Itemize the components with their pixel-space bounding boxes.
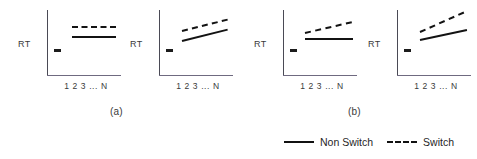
- group-label-a: (a): [110, 106, 123, 117]
- solid-line-icon: [284, 141, 314, 143]
- y-axis-label: RT: [254, 39, 266, 49]
- dashed-line-icon: [387, 141, 417, 143]
- x-axis-line: [283, 75, 357, 76]
- baseline-tick: [54, 49, 61, 52]
- series-non-switch-line: [420, 29, 467, 41]
- chart-panel-2: RT 1 2 3 ... N: [128, 8, 236, 100]
- y-axis-label: RT: [130, 39, 142, 49]
- x-axis-line: [159, 75, 233, 76]
- y-axis-label: RT: [18, 39, 30, 49]
- baseline-tick: [404, 49, 411, 52]
- y-axis-line: [159, 10, 160, 76]
- legend-label-non-switch: Non Switch: [320, 136, 373, 148]
- figure-container: RT 1 2 3 ... N RT 1 2 3 ... N RT 1 2 3 .…: [0, 0, 477, 159]
- y-axis-label: RT: [368, 39, 380, 49]
- chart-panel-1: RT 1 2 3 ... N: [16, 8, 124, 100]
- series-switch-line: [305, 21, 352, 34]
- baseline-tick: [166, 49, 173, 52]
- chart-panel-4: RT 1 2 3 ... N: [366, 8, 474, 100]
- x-axis-label: 1 2 3 ... N: [399, 81, 473, 91]
- y-axis-line: [283, 10, 284, 76]
- x-axis-line: [397, 75, 471, 76]
- y-axis-line: [47, 10, 48, 76]
- x-axis-line: [47, 75, 121, 76]
- legend-label-switch: Switch: [423, 136, 454, 148]
- series-non-switch-line: [305, 38, 353, 40]
- legend-entry-non-switch: Non Switch: [284, 136, 373, 148]
- series-switch-line: [72, 26, 116, 28]
- series-non-switch-line: [182, 29, 228, 42]
- legend-entry-switch: Switch: [387, 136, 454, 148]
- legend: Non Switch Switch: [284, 136, 454, 148]
- baseline-tick: [290, 49, 297, 52]
- chart-panel-3: RT 1 2 3 ... N: [252, 8, 360, 100]
- y-axis-line: [397, 10, 398, 76]
- x-axis-label: 1 2 3 ... N: [285, 81, 359, 91]
- series-switch-line: [420, 12, 465, 33]
- group-label-b: (b): [348, 106, 361, 117]
- x-axis-label: 1 2 3 ... N: [49, 81, 123, 91]
- x-axis-label: 1 2 3 ... N: [161, 81, 235, 91]
- series-non-switch-line: [72, 36, 116, 38]
